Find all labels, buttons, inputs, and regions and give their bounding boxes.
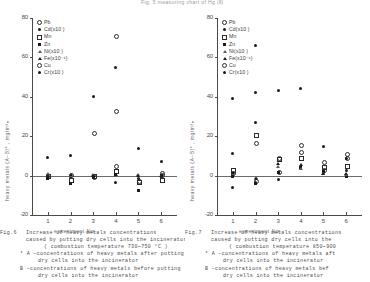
data-point — [46, 174, 50, 177]
legend-marker-open-circle-icon — [36, 62, 43, 69]
data-point — [69, 173, 73, 176]
legend-item: Pb — [221, 19, 253, 26]
x-tick-label: 6 — [156, 218, 166, 224]
data-point — [254, 44, 257, 47]
data-point — [114, 173, 118, 176]
legend-label: Cu — [229, 62, 236, 69]
scatter-plot-fig6: 806040200-20123456experiment No.heavy me… — [0, 10, 185, 225]
legend-label: Mn — [44, 33, 51, 40]
caption-line: B −concentrations of heavy metals bef — [205, 266, 329, 272]
data-point — [114, 109, 119, 114]
legend-label: Cr(x10 ) — [229, 69, 249, 76]
y-tick-mark — [30, 97, 33, 98]
y-axis — [32, 18, 33, 215]
caption-line: dry cells into the incinerator — [38, 258, 139, 264]
scatter-plot-fig7: 806040200-20123456experiment No.heavy me… — [185, 10, 370, 225]
x-tick-mark — [71, 212, 72, 215]
legend-label: Cr(x10 ) — [44, 69, 64, 76]
legend-item: Cd(x10 ) — [36, 26, 68, 33]
data-point — [276, 162, 280, 165]
data-point — [277, 156, 282, 161]
y-tick-mark — [215, 97, 218, 98]
data-point — [322, 145, 325, 148]
legend-marker-filled-tri-icon — [36, 55, 43, 62]
data-point — [299, 156, 304, 161]
x-tick-mark — [233, 212, 234, 215]
caption-line: caused by putting dry cells into the inc… — [26, 237, 185, 243]
y-tick-mark — [30, 176, 33, 177]
x-tick-label: 4 — [296, 218, 306, 224]
legend-marker-open-square-icon — [221, 33, 228, 40]
x-axis — [32, 215, 177, 216]
figure-number-fig6: Fig.6 — [0, 230, 26, 237]
y-tick-label: 80 — [6, 14, 28, 20]
legend-marker-open-circle-icon — [36, 19, 43, 26]
x-tick-mark — [93, 212, 94, 215]
data-point — [254, 133, 259, 138]
y-tick-label: 60 — [191, 53, 213, 59]
figure-caption-fig7: Fig.7Increase of heavy metals concentrat… — [185, 230, 370, 280]
data-point — [276, 165, 280, 168]
caption-line: B −concentrations of heavy metals before… — [20, 266, 181, 272]
y-tick-mark — [30, 18, 33, 19]
caption-line: dry cells into the incinerator — [223, 273, 324, 279]
caption-line: caused by putting dry cells into the — [211, 237, 332, 243]
data-point — [277, 89, 280, 92]
legend-item: Cu — [36, 62, 68, 69]
legend-item: Cu — [221, 62, 253, 69]
data-point — [136, 174, 140, 177]
y-tick-label: -20 — [191, 211, 213, 217]
y-tick-mark — [215, 57, 218, 58]
y-tick-mark — [215, 18, 218, 19]
legend-marker-open-circle-icon — [221, 19, 228, 26]
data-point — [299, 150, 304, 155]
y-tick-label: 40 — [191, 93, 213, 99]
legend-label: Cd(x10 ) — [44, 26, 65, 33]
legend-marker-filled-square-icon — [36, 41, 43, 48]
x-tick-mark — [346, 212, 347, 215]
x-tick-mark — [48, 212, 49, 215]
data-point — [231, 175, 234, 178]
data-point — [254, 91, 257, 94]
caption-line: ( combustion temperature 730~750 °C ) — [44, 244, 168, 250]
legend-label: Fe(x10⁻¹) — [229, 55, 253, 62]
figure-number-fig7: Fig.7 — [185, 230, 211, 237]
y-tick-mark — [215, 176, 218, 177]
legend-label: Pb — [44, 19, 51, 26]
data-point — [160, 178, 165, 183]
x-axis — [217, 215, 362, 216]
legend-label: Cd(x10 ) — [229, 26, 250, 33]
legend-marker-filled-circle-icon — [221, 26, 228, 33]
legend-item: Zn — [221, 41, 253, 48]
data-point — [91, 174, 95, 177]
data-point — [160, 160, 163, 163]
data-point — [46, 177, 49, 180]
legend-label: Zn — [229, 41, 235, 48]
data-point — [114, 181, 117, 184]
data-point — [345, 157, 348, 160]
figure-page: Fig. 5 measuring chart of Hg (Ⅱ) 8060402… — [0, 0, 370, 282]
data-point — [254, 141, 259, 146]
legend-marker-filled-circle-icon — [221, 69, 228, 76]
data-point — [277, 171, 280, 174]
legend-label: Pb — [229, 19, 236, 26]
legend-marker-filled-tri-icon — [221, 55, 228, 62]
caption-line: dry cells into the incinerator — [38, 273, 139, 279]
caption-line: * A −concentrations of heavy metals afte… — [20, 251, 184, 257]
legend-item: Mn — [36, 33, 68, 40]
data-point — [345, 164, 350, 169]
y-tick-mark — [30, 57, 33, 58]
data-point — [114, 34, 119, 39]
data-point — [277, 178, 280, 181]
x-tick-mark — [256, 212, 257, 215]
figure-panel-fig6: 806040200-20123456experiment No.heavy me… — [0, 0, 185, 282]
legend-item: Mn — [221, 33, 253, 40]
data-point — [231, 152, 234, 155]
legend-marker-open-tri-icon — [36, 48, 43, 55]
y-tick-mark — [215, 215, 218, 216]
x-tick-label: 5 — [133, 218, 143, 224]
chart-legend: PbCd(x10 )MnZnNi(x10 )Fe(x10⁻¹)CuCr(x10 … — [221, 19, 253, 77]
data-point — [137, 180, 142, 185]
x-tick-mark — [301, 212, 302, 215]
legend-label: Ni(x10 ) — [44, 48, 63, 55]
